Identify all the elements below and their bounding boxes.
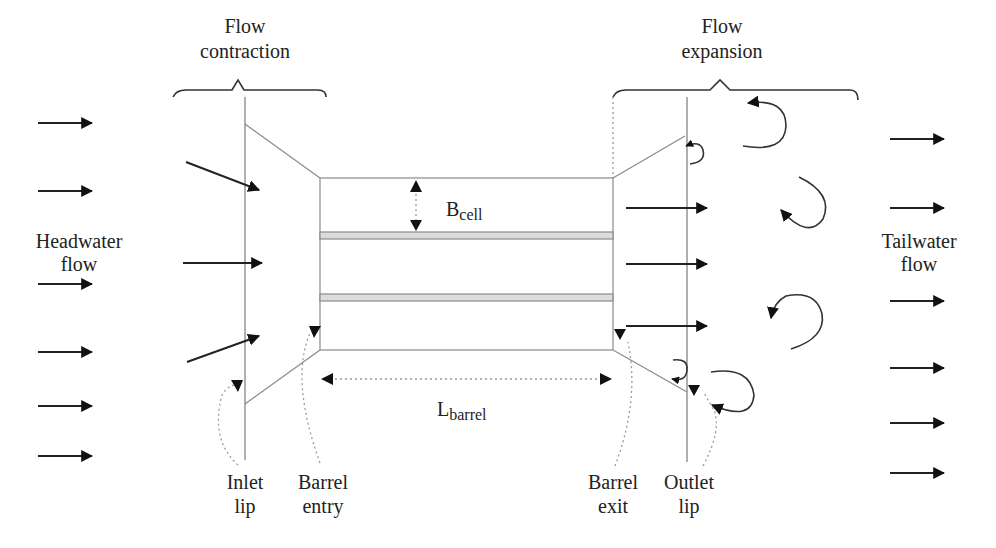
- contraction-label-line2: contraction: [200, 40, 290, 62]
- barrel-entry-label-line2: entry: [302, 495, 343, 518]
- cell-width-arrowhead-down: [410, 220, 422, 231]
- expansion-label-line2: expansion: [681, 40, 762, 63]
- outlet-lip-pointer-icon: [688, 385, 700, 396]
- barrel-exit-leader: [615, 342, 632, 466]
- callout-outlet-lip: Outlet lip: [664, 471, 714, 518]
- barrel-exit-label-line1: Barrel: [588, 471, 638, 493]
- eddy-icon: [686, 144, 703, 164]
- tailwater-flow-label: Tailwater flow: [881, 230, 957, 275]
- inlet-converging-arrow-icon: [186, 162, 259, 190]
- eddies: [672, 102, 826, 411]
- inlet-converging-arrow-icon: [187, 336, 259, 362]
- inlet-lip-label-line1: Inlet: [227, 471, 264, 493]
- headwater-label-line2: flow: [61, 253, 98, 275]
- flow-expansion-label: Flow expansion: [681, 15, 762, 63]
- outlet-lip-label-line2: lip: [678, 495, 699, 518]
- barrel-length-arrowhead-right: [600, 373, 612, 385]
- inlet-lip-label-line2: lip: [234, 495, 255, 518]
- eddy-icon: [672, 360, 687, 380]
- barrel-exit-pointer-icon: [614, 329, 626, 340]
- barrel-outline: [320, 178, 613, 350]
- eddy-icon: [711, 371, 754, 412]
- eddy-icon: [771, 295, 822, 349]
- outlet-arrows: [626, 208, 707, 326]
- headwater-flow-label: Headwater flow: [36, 230, 123, 275]
- headwater-label-line1: Headwater: [36, 230, 123, 252]
- contraction-label-line1: Flow: [224, 15, 266, 37]
- outlet-lip-label-line1: Outlet: [664, 471, 714, 493]
- barrel-entry-label-line1: Barrel: [298, 471, 348, 493]
- barrel-internal-wall-2: [320, 294, 613, 301]
- barrel-length-sub: barrel: [449, 406, 487, 423]
- headwater-arrows: [38, 123, 92, 456]
- barrel-length-arrowhead-left: [321, 373, 333, 385]
- cell-width-label: Bcell: [446, 198, 483, 223]
- outlet-wingwall-bottom: [613, 350, 687, 392]
- outlet-wingwall-top: [613, 136, 685, 178]
- tailwater-label-line2: flow: [901, 253, 938, 275]
- tailwater-label-line1: Tailwater: [881, 230, 957, 252]
- expansion-label-line1: Flow: [701, 15, 743, 37]
- cell-width-arrowhead-up: [410, 180, 422, 192]
- cell-width-main: B: [446, 198, 459, 220]
- outlet-lip-leader: [703, 393, 716, 466]
- culvert-flow-diagram: Flow contraction Flow expansion Bcell Lb…: [0, 0, 996, 548]
- inlet-arrows: [183, 162, 262, 362]
- flow-contraction-label: Flow contraction: [200, 15, 290, 62]
- callout-barrel-entry: Barrel entry: [298, 471, 348, 518]
- barrel-length-label: Lbarrel: [437, 398, 487, 423]
- inlet-lip-leader: [218, 385, 238, 465]
- barrel-entry-pointer-icon: [309, 326, 321, 338]
- barrel-internal-wall-1: [320, 232, 613, 239]
- contraction-brace: [173, 80, 326, 97]
- barrel-length-main: L: [437, 398, 449, 420]
- inlet-wingwall-bottom: [245, 350, 320, 404]
- callout-barrel-exit: Barrel exit: [588, 471, 638, 517]
- barrel-exit-label-line2: exit: [598, 495, 628, 517]
- callout-inlet-lip: Inlet lip: [227, 471, 264, 518]
- inlet-wingwall-top: [245, 124, 320, 178]
- tailwater-arrows: [890, 139, 944, 473]
- expansion-brace: [613, 80, 858, 100]
- cell-width-sub: cell: [459, 206, 483, 223]
- eddy-icon: [743, 102, 786, 147]
- eddy-icon: [781, 177, 826, 228]
